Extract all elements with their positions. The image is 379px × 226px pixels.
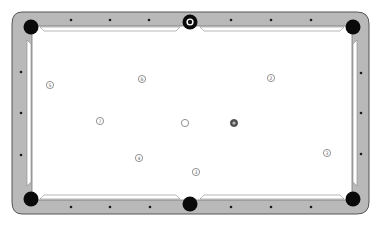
diamond-marker-top-3 [230, 19, 233, 22]
diamond-marker-top-0 [70, 19, 73, 22]
cushion-left [27, 40, 31, 186]
diamond-marker-bottom-1 [109, 206, 112, 209]
cloth [32, 26, 352, 200]
ball-1 [186, 18, 193, 25]
ball-number-label: 6 [141, 77, 144, 82]
pool-table-diagram: 5627433 [0, 0, 379, 226]
diamond-marker-right-2 [360, 153, 363, 156]
cushion-bottom-right [200, 195, 344, 199]
ball-6: 6 [138, 75, 145, 82]
rails [12, 12, 369, 214]
pocket-bottom-left [24, 192, 39, 207]
diamond-marker-right-0 [360, 72, 363, 75]
diamond-marker-top-5 [310, 19, 313, 22]
diamond-marker-left-2 [20, 154, 23, 157]
cushion-right [353, 40, 357, 186]
diamond-marker-right-1 [360, 112, 363, 115]
pocket-bottom-middle [183, 197, 198, 212]
diamond-marker-bottom-5 [310, 206, 313, 209]
ball-cue [181, 119, 188, 126]
diamond-marker-bottom-4 [270, 206, 273, 209]
ball-number-label: 3 [326, 151, 329, 156]
pocket-top-right [346, 20, 361, 35]
diamond-marker-top-1 [109, 19, 112, 22]
diamond-marker-left-0 [20, 71, 23, 74]
cushion-bottom-left [40, 195, 180, 199]
pocket-bottom-right [346, 192, 361, 207]
diamond-marker-bottom-2 [149, 206, 152, 209]
diamond-marker-bottom-3 [230, 206, 233, 209]
ball-7: 7 [96, 117, 103, 124]
ball-number-label: 7 [99, 119, 102, 124]
ball-5: 5 [46, 81, 53, 88]
ball-number-label: 2 [270, 76, 273, 81]
cushion-top-right [200, 27, 344, 31]
ball-2: 2 [267, 74, 274, 81]
ball-number-label: 4 [138, 156, 141, 161]
ball-3: 3 [323, 149, 330, 156]
diamond-marker-bottom-0 [70, 206, 73, 209]
ball-number-label: 5 [49, 83, 52, 88]
ball-4: 4 [135, 154, 142, 161]
ball-number-label: 3 [195, 170, 198, 175]
pocket-top-left [24, 20, 39, 35]
ball-8 [230, 119, 237, 126]
diamond-marker-top-4 [270, 19, 273, 22]
cushion-top-left [40, 27, 180, 31]
diamond-marker-left-1 [20, 112, 23, 115]
ball-3: 3 [192, 168, 199, 175]
diamond-marker-top-2 [148, 19, 151, 22]
